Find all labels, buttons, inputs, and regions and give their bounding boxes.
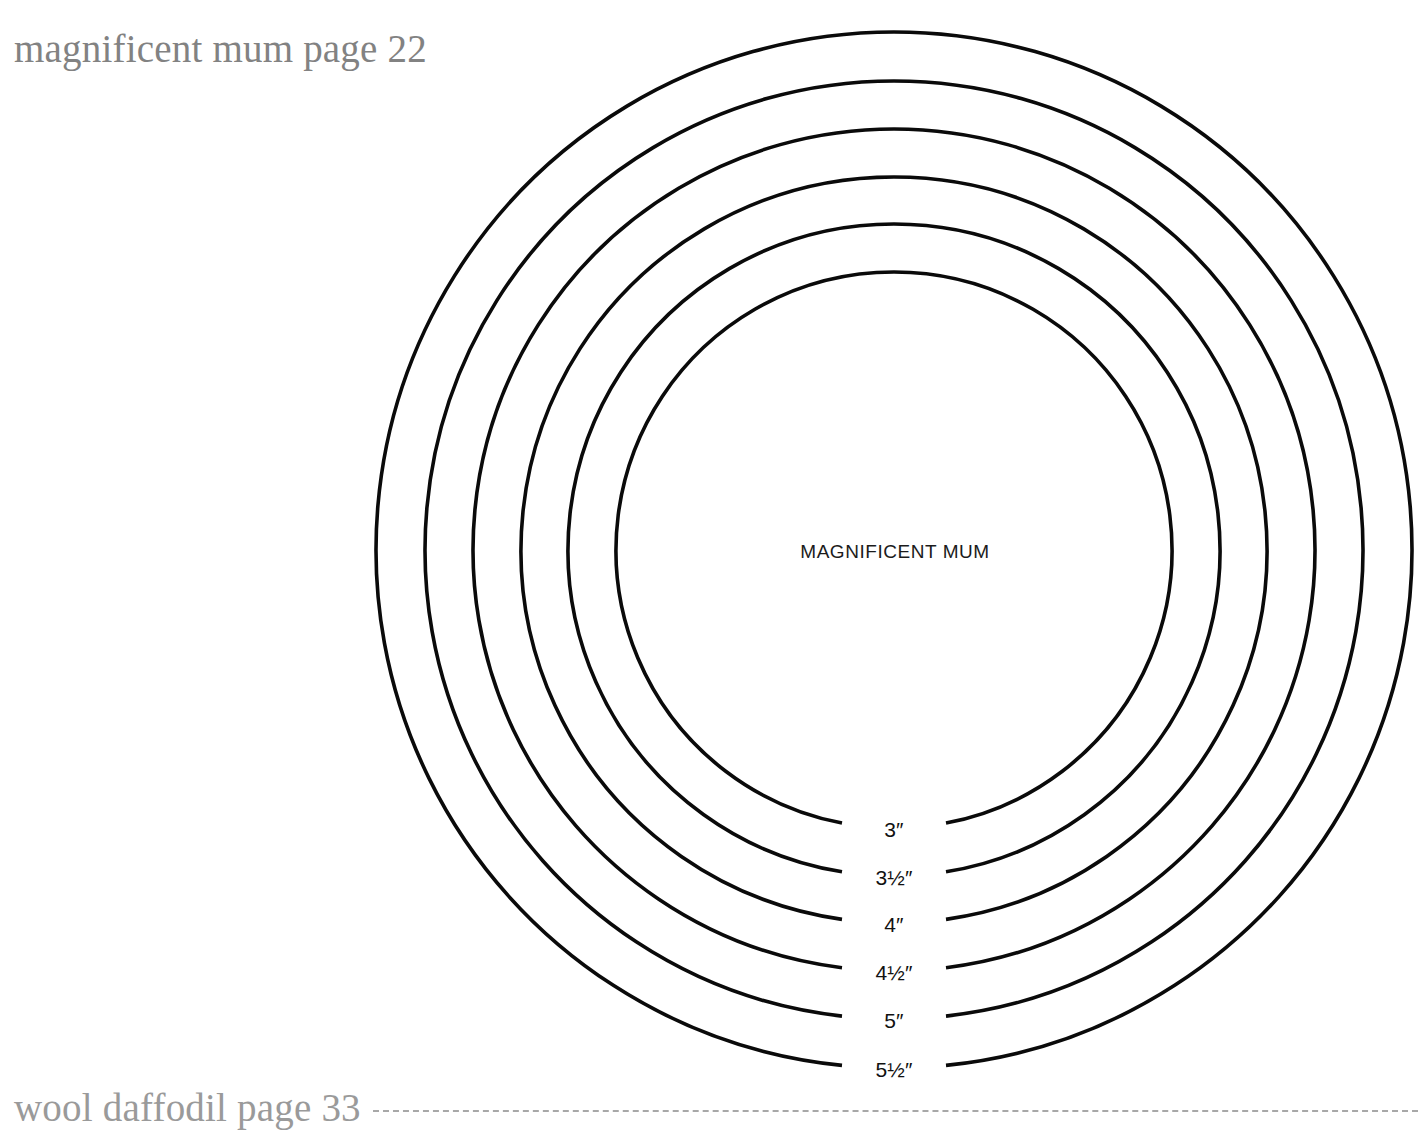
running-foot: wool daffodil page 33 bbox=[14, 1085, 361, 1131]
size-label-4: 4″ bbox=[834, 913, 954, 937]
diagram-center-label: MAGNIFICENT MUM bbox=[0, 541, 1418, 563]
size-label-5-5: 5½″ bbox=[834, 1058, 954, 1082]
size-label-4-5: 4½″ bbox=[834, 961, 954, 985]
size-label-3: 3″ bbox=[834, 818, 954, 842]
running-head: magnificent mum page 22 bbox=[14, 26, 427, 72]
running-foot-row: wool daffodil page 33 bbox=[14, 1084, 1418, 1132]
cut-line-dashed bbox=[373, 1110, 1418, 1112]
size-label-5: 5″ bbox=[834, 1009, 954, 1033]
size-label-3-5: 3½″ bbox=[834, 866, 954, 890]
